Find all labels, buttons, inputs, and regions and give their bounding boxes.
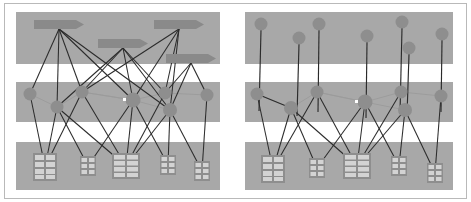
left-banner-node-4[interactable] xyxy=(166,54,216,63)
left-banner-node-1[interactable] xyxy=(34,20,84,29)
right-middle-node-3[interactable] xyxy=(311,86,324,99)
diagram-panel-left[interactable] xyxy=(10,6,226,196)
right-top-node-2[interactable] xyxy=(293,32,306,45)
right-top-node-1[interactable] xyxy=(255,18,268,31)
left-table-icon-5[interactable] xyxy=(194,161,210,181)
right-top-node-4[interactable] xyxy=(361,30,374,43)
right-middle-node-4[interactable] xyxy=(358,95,373,110)
left-banner-node-3[interactable] xyxy=(154,20,204,29)
left-middle-node-5[interactable] xyxy=(159,87,172,100)
right-middle-node-5[interactable] xyxy=(395,86,408,99)
right-table-icon-5[interactable] xyxy=(427,163,443,183)
panel-left-canvas xyxy=(10,6,226,196)
right-top-node-5[interactable] xyxy=(396,16,409,29)
right-table-icon-4[interactable] xyxy=(391,156,407,176)
figure-container xyxy=(0,0,471,202)
left-middle-node-2[interactable] xyxy=(51,101,64,114)
panel-right-canvas xyxy=(239,6,461,196)
left-middle-node-6[interactable] xyxy=(163,103,177,117)
left-middle-node-1[interactable] xyxy=(24,88,37,101)
right-middle-node-7[interactable] xyxy=(435,90,448,103)
left-table-icon-1[interactable] xyxy=(33,153,57,181)
right-table-icon-3[interactable] xyxy=(343,153,371,179)
left-table-icon-3[interactable] xyxy=(112,153,140,179)
right-top-band xyxy=(245,12,453,64)
right-highlight-dot xyxy=(355,100,358,103)
right-middle-node-2[interactable] xyxy=(284,101,298,115)
left-middle-node-3[interactable] xyxy=(76,86,89,99)
diagram-panel-right[interactable] xyxy=(239,6,461,196)
left-middle-node-7[interactable] xyxy=(201,89,214,102)
left-banner-node-2[interactable] xyxy=(98,39,148,48)
left-middle-node-4[interactable] xyxy=(126,93,141,108)
left-highlight-dot xyxy=(123,98,126,101)
right-top-node-7[interactable] xyxy=(436,28,449,41)
left-table-icon-2[interactable] xyxy=(80,156,96,176)
right-table-icon-2[interactable] xyxy=(309,158,325,178)
right-middle-node-6[interactable] xyxy=(398,103,412,117)
right-table-icon-1[interactable] xyxy=(261,155,285,183)
right-top-node-3[interactable] xyxy=(313,18,326,31)
right-middle-node-1[interactable] xyxy=(251,88,264,101)
right-top-node-6[interactable] xyxy=(403,42,416,55)
left-table-icon-4[interactable] xyxy=(160,155,176,175)
